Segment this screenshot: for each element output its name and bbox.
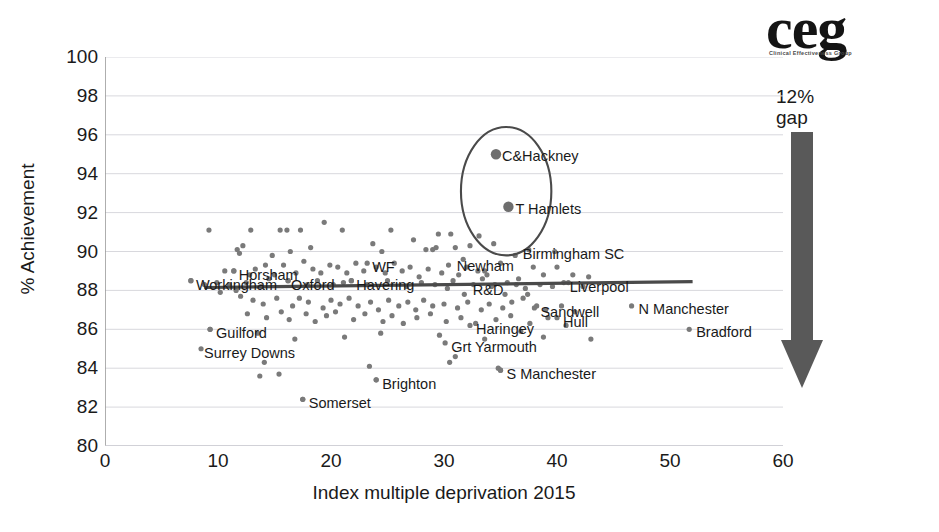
x-tick-label: 0 (83, 450, 127, 472)
point-label: Liverpool (570, 280, 629, 294)
chart-page: ceg Clinical Effectiveness Group 12% gap… (0, 0, 939, 532)
point-label: Guilford (216, 326, 267, 340)
point-label: Workingham (196, 278, 277, 292)
y-tick-label: 84 (52, 357, 98, 379)
point-label: Oxford (291, 278, 335, 292)
point-label: WF (372, 260, 395, 274)
y-tick-label: 86 (52, 318, 98, 340)
point-label: Brighton (382, 377, 436, 391)
point-label: Bradford (696, 325, 752, 339)
y-tick-label: 100 (52, 46, 98, 68)
y-tick-label: 88 (52, 279, 98, 301)
point-label: C&Hackney (502, 149, 579, 163)
y-axis-ticks: 10098969492908886848280 (50, 57, 98, 446)
x-axis-title: Index multiple deprivation 2015 (105, 482, 783, 504)
point-label: Birmingham SC (523, 247, 625, 261)
point-label: Surrey Downs (204, 346, 295, 360)
point-label: Haringey (476, 322, 534, 336)
x-tick-label: 40 (535, 450, 579, 472)
point-label: T Hamlets (515, 202, 581, 216)
point-label: Somerset (309, 396, 371, 410)
point-label: Hull (563, 315, 588, 329)
down-arrow-icon (781, 132, 823, 388)
y-tick-label: 92 (52, 202, 98, 224)
y-tick-label: 98 (52, 85, 98, 107)
plot-area: C&HackneyT HamletsNewhamR&DBirmingham SC… (105, 57, 783, 446)
logo-wordmark: ceg (766, 2, 926, 54)
y-tick-label: 90 (52, 241, 98, 263)
x-tick-label: 50 (648, 450, 692, 472)
gap-word-label: gap (776, 107, 856, 128)
ceg-logo: ceg Clinical Effectiveness Group (766, 2, 926, 68)
x-tick-label: 60 (761, 450, 805, 472)
y-tick-label: 82 (52, 396, 98, 418)
point-label: N Manchester (639, 302, 729, 316)
y-tick-label: 94 (52, 163, 98, 185)
x-tick-label: 30 (422, 450, 466, 472)
x-tick-label: 10 (196, 450, 240, 472)
gap-annotation: 12% gap (776, 86, 856, 128)
y-axis-title: % Achievement (17, 139, 39, 319)
point-label: Newham (457, 259, 514, 273)
point-label: Grt Yarmouth (451, 340, 537, 354)
x-tick-label: 20 (309, 450, 353, 472)
point-label: Havering (356, 278, 414, 292)
gap-percent-label: 12% (776, 86, 856, 107)
logo-subtitle: Clinical Effectiveness Group (769, 50, 926, 56)
x-axis-ticks: 0102030405060 (105, 450, 783, 476)
point-label: R&D (473, 283, 504, 297)
point-label: S Manchester (507, 367, 596, 381)
point-labels: C&HackneyT HamletsNewhamR&DBirmingham SC… (105, 57, 783, 446)
y-tick-label: 96 (52, 124, 98, 146)
